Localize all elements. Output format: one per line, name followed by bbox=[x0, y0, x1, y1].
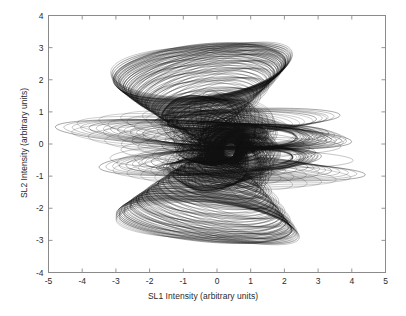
svg-text:2: 2 bbox=[282, 276, 287, 286]
svg-text:-2: -2 bbox=[36, 203, 44, 213]
x-axis-label: SL1 Intensity (arbitrary units) bbox=[0, 291, 406, 301]
phase-space-plot: -5-4-3-2-1012345 -4-3-2-101234 bbox=[0, 0, 406, 316]
svg-text:-2: -2 bbox=[146, 276, 154, 286]
svg-text:-3: -3 bbox=[36, 235, 44, 245]
y-axis-label: SL2 Intensity (arbitrary units) bbox=[19, 88, 29, 198]
svg-text:1: 1 bbox=[39, 107, 44, 117]
svg-text:0: 0 bbox=[39, 139, 44, 149]
svg-text:2: 2 bbox=[39, 75, 44, 85]
figure-panel: -5-4-3-2-1012345 -4-3-2-101234 SL1 Inten… bbox=[0, 0, 406, 316]
svg-text:-1: -1 bbox=[36, 171, 44, 181]
y-axis-label-wrap: SL2 Intensity (arbitrary units) bbox=[13, 43, 31, 243]
svg-text:3: 3 bbox=[39, 43, 44, 53]
svg-text:3: 3 bbox=[316, 276, 321, 286]
svg-text:1: 1 bbox=[248, 276, 253, 286]
svg-text:-4: -4 bbox=[36, 268, 44, 278]
svg-text:4: 4 bbox=[349, 276, 354, 286]
svg-text:4: 4 bbox=[39, 11, 44, 21]
svg-text:-4: -4 bbox=[78, 276, 86, 286]
svg-text:-5: -5 bbox=[45, 276, 53, 286]
svg-text:0: 0 bbox=[215, 276, 220, 286]
svg-text:5: 5 bbox=[383, 276, 388, 286]
svg-text:-1: -1 bbox=[180, 276, 188, 286]
svg-text:-3: -3 bbox=[112, 276, 120, 286]
